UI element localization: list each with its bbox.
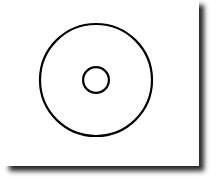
inner-circle — [83, 67, 109, 93]
concentric-circles-diagram — [0, 0, 216, 179]
diagram-stage — [0, 0, 216, 179]
outer-circle — [40, 24, 152, 136]
